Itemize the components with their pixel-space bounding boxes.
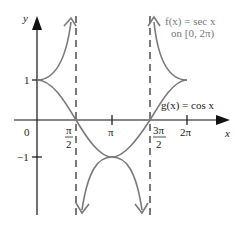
sec-label-domain: on [0, 2π) [171, 27, 214, 40]
zero-label: 0 [24, 126, 30, 138]
x-axis-label: x [224, 127, 230, 139]
two-pi-label: 2π [180, 126, 192, 138]
one-label: 1 [24, 74, 30, 86]
sec-branch-2 [82, 157, 142, 210]
pi-label: π [108, 126, 114, 138]
y-axis-label: y [22, 12, 28, 24]
three-pi-half-numerator: 3π [153, 124, 165, 136]
neg-one-label: −1 [17, 151, 29, 163]
pi-half-denominator: 2 [66, 138, 72, 150]
cos-label: g(x) = cos x [161, 99, 214, 112]
y-axis-arrow-icon [32, 16, 42, 30]
x-axis-arrow-icon [216, 115, 230, 125]
sec-branch-1 [37, 22, 71, 80]
pi-half-numerator: π [66, 124, 72, 136]
three-pi-half-denominator: 2 [156, 138, 162, 150]
chart: y x 0 1 −1 π 2π π 2 3π 2 f(x) = sec x on… [0, 0, 235, 235]
